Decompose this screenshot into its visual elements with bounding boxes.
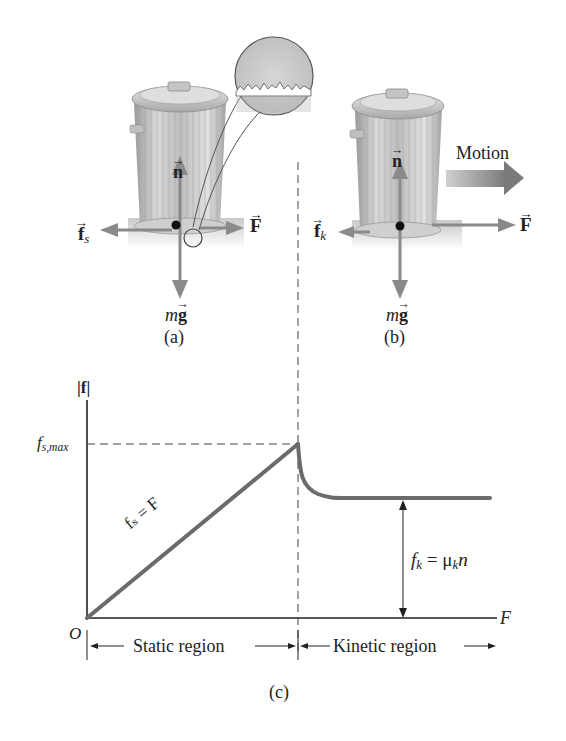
weight-label-a: mg (165, 306, 187, 324)
kinetic-friction-curve (298, 444, 490, 498)
caption-c: (c) (269, 683, 289, 701)
normal-force-label-a: n (173, 163, 183, 181)
static-friction-line (87, 444, 298, 618)
panel-a (100, 37, 313, 299)
static-friction-label: fs (78, 224, 89, 246)
applied-force-label-a: F (250, 216, 262, 235)
caption-a: (a) (164, 328, 184, 346)
y-axis-label: |f| (77, 379, 90, 396)
kinetic-friction-equation: fk = μkn (411, 550, 468, 572)
fsmax-label: fs,max (37, 434, 68, 453)
center-dot-a (172, 221, 181, 230)
origin-label: O (69, 625, 81, 642)
friction-figure (0, 0, 566, 741)
center-dot-b (396, 222, 405, 231)
kinetic-region-label: Kinetic region (333, 637, 436, 655)
static-region-label: Static region (133, 637, 224, 655)
normal-force-label-b: n (392, 152, 402, 170)
motion-label: Motion (456, 144, 509, 162)
motion-arrow (446, 170, 506, 187)
x-axis-label: F (500, 609, 511, 627)
kinetic-friction-label: fk (314, 221, 326, 243)
weight-label-b: mg (386, 306, 408, 324)
caption-b: (b) (384, 328, 405, 346)
panel-b (338, 89, 524, 299)
applied-force-label-b: F (520, 215, 532, 234)
